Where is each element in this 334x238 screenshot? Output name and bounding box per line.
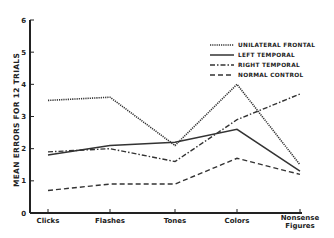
x-tick-label: Clicks xyxy=(37,217,60,225)
legend-label: RIGHT TEMPORAL xyxy=(238,62,300,68)
series-line-unilateral-frontal xyxy=(48,84,300,164)
line-chart: 0123456ClicksFlashesTonesColorsNonsenseF… xyxy=(0,0,334,238)
y-axis-title: MEAN ERRORS FOR 12 TRIALS xyxy=(12,53,21,187)
y-tick-label: 2 xyxy=(21,145,26,153)
legend-label: LEFT TEMPORAL xyxy=(238,52,295,58)
x-tick-label: Flashes xyxy=(95,217,125,225)
legend-label: NORMAL CONTROL xyxy=(238,72,303,78)
y-tick-label: 3 xyxy=(21,113,26,121)
legend-label: UNILATERAL FRONTAL xyxy=(238,42,315,48)
y-tick-label: 5 xyxy=(21,49,26,57)
series-line-normal-control xyxy=(48,158,300,190)
y-tick-label: 4 xyxy=(21,81,26,89)
y-tick-label: 1 xyxy=(21,177,26,185)
y-tick-label: 6 xyxy=(21,17,26,25)
x-tick-label: Tones xyxy=(164,217,187,225)
x-tick-label: NonsenseFigures xyxy=(281,214,320,230)
series-group xyxy=(48,84,300,190)
series-line-right-temporal xyxy=(48,94,300,162)
legend: UNILATERAL FRONTALLEFT TEMPORALRIGHT TEM… xyxy=(210,42,315,78)
axes: 0123456ClicksFlashesTonesColorsNonsenseF… xyxy=(21,17,319,230)
x-tick-label: Colors xyxy=(225,217,250,225)
y-tick-label: 0 xyxy=(21,210,26,218)
